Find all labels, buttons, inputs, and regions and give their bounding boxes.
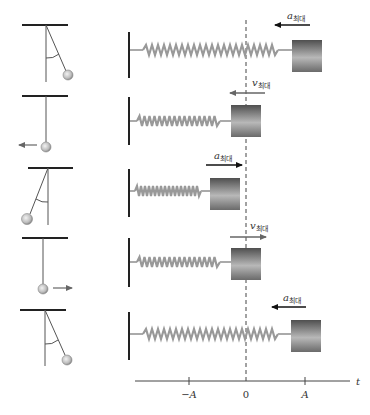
pendulum-2 <box>19 96 68 152</box>
pendulum-bob <box>63 70 73 80</box>
tick-label-zero: 0 <box>243 389 249 400</box>
spring-row-2: v최대 <box>129 77 270 145</box>
vector-label: v최대 <box>252 77 270 90</box>
mass-block <box>291 320 321 352</box>
spring-row-4: v최대 <box>129 220 268 287</box>
mass-block <box>231 105 261 137</box>
pendulum-1 <box>22 25 73 82</box>
mass-block <box>210 178 240 210</box>
vector-label: a최대 <box>214 150 232 163</box>
pendulum-5 <box>20 310 72 366</box>
pendulum-spring-diagram: a최대 v최대 a최대 v최대 a최대 <box>0 0 370 415</box>
mass-block <box>231 248 261 280</box>
axis-variable-label: t <box>356 376 361 387</box>
angle-arc-icon <box>36 199 48 202</box>
angle-arc-icon <box>46 54 59 58</box>
vector-label: v최대 <box>250 220 268 233</box>
position-axis: −A 0 A t <box>135 376 361 400</box>
mass-block <box>292 40 322 72</box>
pendulum-bob <box>62 355 72 365</box>
pendulum-bob <box>22 214 33 225</box>
pendulum-bob <box>41 142 51 152</box>
vector-label: a최대 <box>283 292 301 305</box>
spring-row-1: a최대 <box>129 10 322 78</box>
pendulum-bob <box>38 284 48 294</box>
angle-arc-icon <box>45 340 58 344</box>
tick-label-plus-a: A <box>300 389 308 400</box>
vector-label: a최대 <box>287 10 305 23</box>
pendulum-3 <box>22 168 74 225</box>
tick-label-minus-a: −A <box>181 389 197 400</box>
pendulum-4 <box>22 238 72 294</box>
spring-row-5: a최대 <box>129 292 321 360</box>
spring-row-3: a최대 <box>129 150 242 217</box>
